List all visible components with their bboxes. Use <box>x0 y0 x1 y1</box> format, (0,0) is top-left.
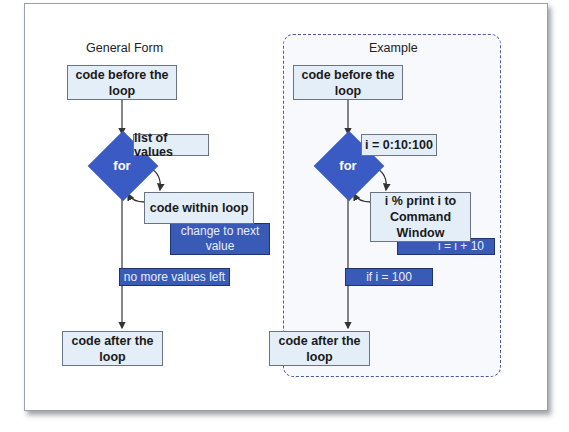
example-after-box: code after the loop <box>269 331 370 366</box>
example-for-label: for <box>328 158 368 173</box>
general-form-title: General Form <box>86 41 163 55</box>
general-change-label: change to next value <box>170 223 270 255</box>
general-exit-label: no more values left <box>119 268 230 286</box>
general-before-box: code before the loop <box>67 65 177 100</box>
example-title: Example <box>369 41 418 55</box>
general-after-box: code after the loop <box>62 331 163 366</box>
general-body-box: code within loop <box>144 192 254 224</box>
general-list-label: list of values <box>133 134 209 156</box>
example-exit-label: if i = 100 <box>345 268 433 286</box>
general-for-label: for <box>102 158 142 173</box>
example-list-label: i = 0:10:100 <box>361 134 437 156</box>
example-body-box: i % print i to Command Window <box>370 192 471 242</box>
example-before-box: code before the loop <box>293 65 403 100</box>
